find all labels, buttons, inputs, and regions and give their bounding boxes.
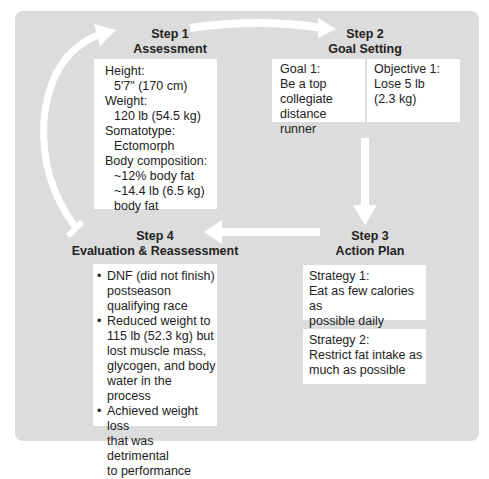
step4-heading: Step 4 Evaluation & Reassessment (70, 229, 240, 259)
step2-heading: Step 2 Goal Setting (305, 27, 425, 57)
arrow-step2-to-step3-icon (353, 138, 377, 225)
evaluation-bullet: Reduced weight to 115 lb (52.3 kg) but l… (96, 314, 217, 404)
step4-evaluation-box: DNF (did not finish) postseason qualifyi… (93, 264, 217, 426)
step3-heading: Step 3 Action Plan (320, 229, 420, 259)
strategy2-box: Strategy 2: Restrict fat intake as much … (303, 329, 426, 384)
body-fat-mass-unit: body fat (105, 199, 217, 214)
goal-line: Be a top (280, 77, 365, 92)
strategy1-line: possible daily (309, 314, 426, 329)
evaluation-bullet: DNF (did not finish) postseason qualifyi… (96, 269, 217, 314)
step1-title: Assessment (115, 42, 225, 57)
strategy2-line: Restrict fat intake as (309, 348, 426, 363)
body-fat-mass: ~14.4 lb (6.5 kg) (105, 184, 217, 199)
weight-label: Weight: (105, 94, 217, 109)
step2-title: Goal Setting (305, 42, 425, 57)
step4-number: Step 4 (70, 229, 240, 244)
objective-box: Objective 1: Lose 5 lb (2.3 kg) (367, 59, 460, 122)
body-fat-percent: ~12% body fat (105, 169, 217, 184)
height-label: Height: (105, 64, 217, 79)
strategy1-label: Strategy 1: (309, 269, 426, 284)
strategy1-box: Strategy 1: Eat as few calories as possi… (303, 265, 426, 320)
evaluation-bullet: Achieved weight loss that was detrimenta… (96, 404, 217, 479)
step1-number: Step 1 (115, 27, 225, 42)
objective-label: Objective 1: (374, 62, 460, 77)
height-value: 5'7" (170 cm) (105, 79, 217, 94)
step1-heading: Step 1 Assessment (115, 27, 225, 57)
somatotype-label: Somatotype: (105, 124, 217, 139)
step1-assessment-box: Height: 5'7" (170 cm) Weight: 120 lb (54… (94, 59, 217, 209)
strategy1-line: Eat as few calories as (309, 284, 426, 314)
evaluation-bullet-list: DNF (did not finish) postseason qualifyi… (96, 269, 217, 479)
step2-number: Step 2 (305, 27, 425, 42)
step4-title: Evaluation & Reassessment (70, 244, 240, 259)
weight-value: 120 lb (54.5 kg) (105, 109, 217, 124)
somatotype-value: Ectomorph (105, 139, 217, 154)
body-composition-label: Body composition: (105, 154, 217, 169)
strategy2-line: much as possible (309, 363, 426, 378)
step3-title: Action Plan (320, 244, 420, 259)
goal-label: Goal 1: (280, 62, 365, 77)
goal-line: collegiate (280, 92, 365, 107)
goal-box: Goal 1: Be a top collegiate distance run… (272, 59, 365, 122)
step3-number: Step 3 (320, 229, 420, 244)
objective-line: (2.3 kg) (374, 92, 460, 107)
strategy2-label: Strategy 2: (309, 333, 426, 348)
objective-line: Lose 5 lb (374, 77, 460, 92)
goal-line: distance runner (280, 107, 365, 137)
